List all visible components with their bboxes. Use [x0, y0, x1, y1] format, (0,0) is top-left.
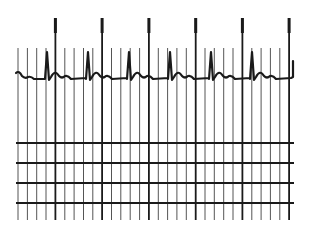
vertical-grid-lines	[18, 18, 289, 220]
ecg-strip	[0, 0, 310, 231]
